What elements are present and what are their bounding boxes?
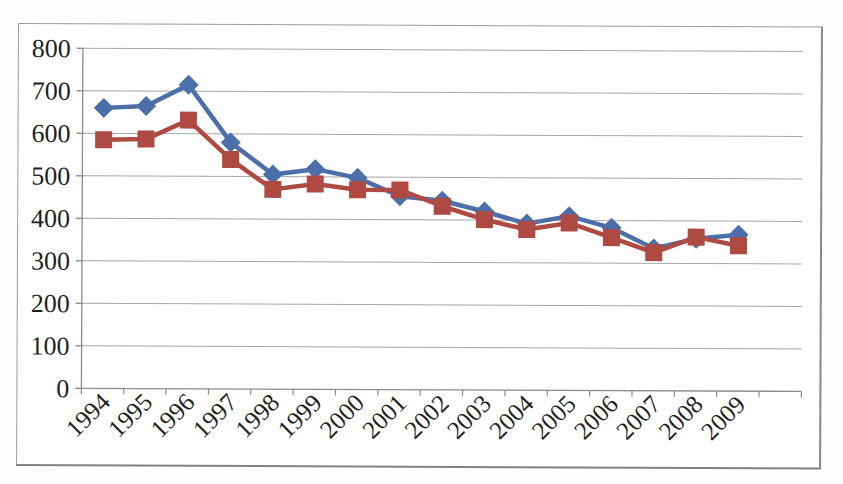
y-axis-tick-label: 0 [56,374,69,403]
y-axis-tick-label: 300 [31,247,70,276]
data-point-marker-square [434,198,451,215]
data-point-marker-square [180,112,197,129]
gridline [82,346,802,349]
x-axis-tick-label: 2004 [484,389,539,444]
data-point-marker-square [561,214,578,231]
x-axis-tick-label: 1998 [230,389,285,443]
gridline [82,303,802,306]
x-axis-tick-label: 2006 [569,390,624,444]
data-point-marker-square [518,221,535,238]
gridline [82,261,802,264]
gridline [82,218,802,221]
y-axis-tick-label: 400 [31,204,70,233]
data-point-marker-square [264,181,281,198]
data-point-marker-square [688,229,705,246]
x-axis-tick-label: 2003 [442,389,497,443]
x-axis-tick-label: 2007 [611,390,666,444]
x-axis-tick-label: 2008 [653,390,708,444]
x-axis-tick-label: 2001 [357,389,412,443]
series-2-red-squares-line [103,120,739,253]
y-axis-tick-label: 800 [32,34,71,63]
data-point-marker-square [222,151,239,168]
x-axis-tick-label: 1999 [272,389,327,443]
data-point-marker-square [391,181,408,198]
chart-frame: 8007006005004003002001000199419951996199… [16,23,823,470]
data-point-marker-square [603,229,620,246]
x-axis-tick-label: 1995 [103,388,158,442]
data-point-marker-square [645,244,662,261]
gridline [83,48,803,51]
data-point-marker-square [730,237,747,254]
data-point-marker-diamond [94,98,114,118]
data-point-marker-diamond [136,96,156,116]
x-axis-tick-label: 2002 [399,389,454,443]
scanned-chart-image: 8007006005004003002001000199419951996199… [0,0,843,484]
line-chart: 8007006005004003002001000199419951996199… [17,24,820,466]
gridline [82,176,802,179]
x-axis-tick-label: 2009 [696,391,751,445]
data-point-marker-square [137,131,154,148]
y-axis-tick-label: 600 [31,119,70,148]
data-point-marker-square [349,181,366,198]
x-axis-line [81,388,801,391]
data-point-marker-square [307,175,324,192]
y-axis-tick-label: 500 [31,162,70,191]
x-axis-tick-label: 1997 [188,388,243,442]
data-point-marker-square [95,131,112,148]
data-point-marker-square [476,211,493,228]
y-axis-tick-label: 100 [31,332,70,361]
x-axis-tick-label: 2005 [526,390,581,444]
gridline [83,133,803,136]
y-axis-tick-label: 200 [31,289,70,318]
series-1-blue-diamonds-line [103,85,739,249]
x-axis-tick-label: 2000 [315,389,370,443]
y-axis-tick-label: 700 [32,77,71,106]
x-axis-tick-label: 1996 [145,388,200,442]
